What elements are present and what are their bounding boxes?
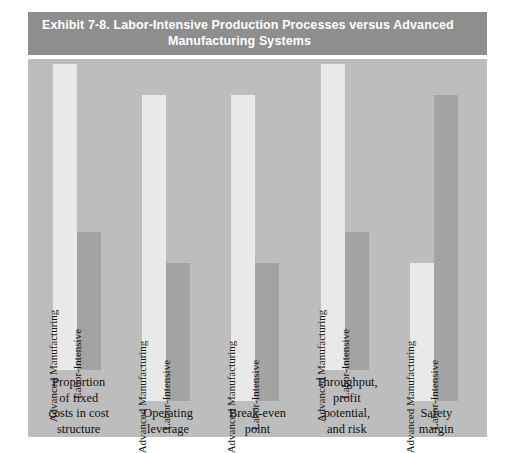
bar-label-advanced-manufacturing: Advanced Manufacturing <box>309 310 333 423</box>
bar-group: Advanced Manufacturing Labor-Intensive O… <box>126 59 210 437</box>
bar-labor-intensive: Labor-Intensive <box>434 95 458 401</box>
bar-label-labor-intensive: Labor-Intensive <box>333 329 357 399</box>
bar-group: Advanced Manufacturing Labor-Intensive B… <box>215 59 299 437</box>
exhibit-title-line-1: Exhibit 7-8. Labor-Intensive Production … <box>42 18 454 32</box>
bar-label-labor-intensive: Labor-Intensive <box>154 360 178 430</box>
bar-pair: Advanced Manufacturing Labor-Intensive <box>142 95 194 401</box>
bar-advanced-manufacturing: Advanced Manufacturing <box>321 64 345 370</box>
bar-labor-intensive: Labor-Intensive <box>345 232 369 370</box>
exhibit-title: Exhibit 7-8. Labor-Intensive Production … <box>42 18 477 49</box>
bar-advanced-manufacturing: Advanced Manufacturing <box>53 64 77 370</box>
bar-label-labor-intensive: Labor-Intensive <box>65 329 89 399</box>
category-label-line: structure <box>27 422 131 438</box>
bar-pair: Advanced Manufacturing Labor-Intensive <box>321 64 373 370</box>
bar-label-advanced-manufacturing: Advanced Manufacturing <box>398 341 422 453</box>
bar-label-advanced-manufacturing: Advanced Manufacturing <box>41 310 65 423</box>
bar-label-labor-intensive: Labor-Intensive <box>422 360 446 430</box>
bar-pair: Advanced Manufacturing Labor-Intensive <box>410 95 462 401</box>
category-label-line: and risk <box>295 422 399 438</box>
exhibit-title-line-2: Manufacturing Systems <box>42 34 477 50</box>
bar-group: Advanced Manufacturing Labor-Intensive T… <box>305 59 389 437</box>
bar-label-labor-intensive: Labor-Intensive <box>243 360 267 430</box>
bar-labor-intensive: Labor-Intensive <box>166 263 190 401</box>
bar-advanced-manufacturing: Advanced Manufacturing <box>231 95 255 401</box>
bar-group-container: Advanced Manufacturing Labor-Intensive P… <box>28 59 487 437</box>
bar-label-advanced-manufacturing: Advanced Manufacturing <box>219 341 243 453</box>
exhibit-figure: Exhibit 7-8. Labor-Intensive Production … <box>28 12 487 437</box>
bar-pair: Advanced Manufacturing Labor-Intensive <box>231 95 283 401</box>
bar-group: Advanced Manufacturing Labor-Intensive S… <box>394 59 478 437</box>
chart-plot-area: Advanced Manufacturing Labor-Intensive P… <box>28 59 487 437</box>
bar-labor-intensive: Labor-Intensive <box>255 263 279 401</box>
bar-pair: Advanced Manufacturing Labor-Intensive <box>53 64 105 370</box>
bar-group: Advanced Manufacturing Labor-Intensive P… <box>37 59 121 437</box>
bar-labor-intensive: Labor-Intensive <box>77 232 101 370</box>
bar-advanced-manufacturing: Advanced Manufacturing <box>142 95 166 401</box>
bar-label-advanced-manufacturing: Advanced Manufacturing <box>130 341 154 453</box>
exhibit-title-banner: Exhibit 7-8. Labor-Intensive Production … <box>28 12 487 55</box>
